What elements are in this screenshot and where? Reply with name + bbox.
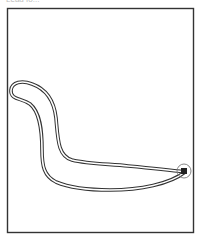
line-drawing-figure <box>0 0 202 241</box>
looped-cord <box>11 82 185 190</box>
figure-frame <box>8 9 194 233</box>
